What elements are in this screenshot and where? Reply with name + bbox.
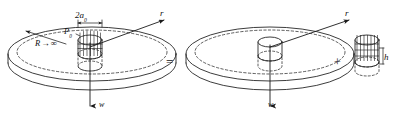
label-applied-pressure: P0	[64, 27, 72, 38]
label-right-deflection-axis: w	[268, 101, 273, 109]
label-plate-radius-infinite: R→∞	[35, 39, 57, 48]
detail-hub-cylinder	[355, 35, 379, 76]
label-right-radial-axis: r	[345, 9, 349, 18]
label-applied-pressure-subscript: 0	[69, 33, 72, 39]
label-hub-diameter: 2a0	[75, 11, 87, 22]
left-r-axis	[90, 20, 164, 47]
right-r-axis	[270, 20, 349, 47]
label-left-radial-axis: r	[160, 9, 164, 18]
label-radius-arrow: →	[40, 38, 51, 48]
plus-operator: +	[334, 56, 341, 68]
equals-operator: =	[166, 55, 173, 68]
superposition-figure: 2a0 P0 R→∞ r w = r w + h	[0, 0, 397, 121]
left-pressure-leader	[76, 34, 80, 36]
label-left-deflection-axis: w	[99, 101, 104, 109]
label-hub-diameter-subscript: 0	[84, 17, 87, 23]
label-hub-height: h	[384, 53, 389, 62]
